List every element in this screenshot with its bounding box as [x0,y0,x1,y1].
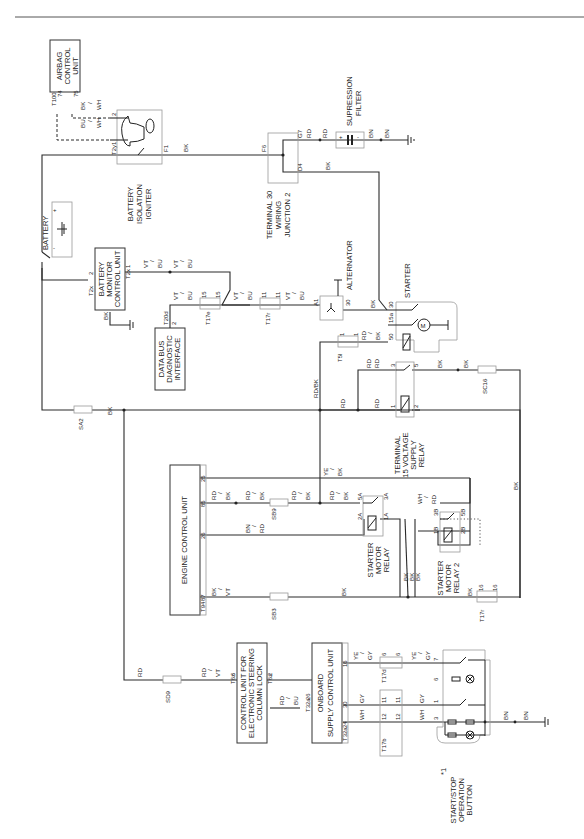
smr-pin-1a: 1A [383,513,389,520]
oscu-pin-16: 16 [342,660,348,667]
alternator-label: ALTERNATOR [345,240,354,290]
alternator-pin-30: 30 [345,299,351,306]
connector-t17b: T17b [381,738,387,752]
svg-text:VT: VT [214,669,221,677]
svg-text:BN: BN [383,129,390,138]
svg-text:RD: RD [244,491,251,500]
wiring-diagram: AIRBAG CONTROL UNIT T100 74 75 1 2 T2y F… [0,0,584,839]
svg-text:BU: BU [79,119,86,128]
svg-text:16: 16 [478,584,484,591]
fuse-sa2: SA2 [77,418,84,430]
svg-text:BU: BU [298,291,305,300]
igniter-label-2: ISOLATION [135,184,144,224]
ssb-pin-1: 1 [433,699,439,703]
terminal-30-wiring-junction-2[interactable]: F6 G7 D4 TERMINAL 30 WIRING JUNCTION 2 [261,129,303,239]
terminal-15-voltage-supply-relay[interactable]: 3 1 5 2 TERMINAL 15 VOLTAGE SUPPLY RELAY [390,362,426,478]
svg-text:BU: BU [292,696,299,705]
alternator[interactable]: ALTERNATOR A1 30 [313,240,354,320]
steering-column-lock-control-unit[interactable]: CONTROL UNIT FOR ELECTRONIC STEERING COL… [230,643,273,743]
dbdi-label-3: INTERFACE [173,338,182,381]
svg-text:WH: WH [358,710,365,720]
start-stop-operation-button[interactable]: 7 6 1 3 *1 START/STOP OPERATION BUTTON [433,650,548,823]
svg-text:6: 6 [395,652,401,656]
fuse-sc16: SC16 [481,378,488,394]
svg-text:WH: WH [95,100,102,110]
onboard-supply-control-unit[interactable]: ONBOARD SUPPLY CONTROL UNIT T32a 26 16 3… [305,643,348,743]
svg-text:RD: RD [278,696,285,705]
battery[interactable]: BATTERY + - [41,202,72,258]
scl-label-3: COLUMN LOCK [255,665,264,721]
svg-text:15: 15 [201,291,207,298]
svg-text:BK: BK [466,587,473,596]
svg-text:BK: BK [369,299,376,308]
svg-text:11: 11 [395,696,401,703]
starter-pin-15a: 15a [388,312,394,323]
airbag-label-3: UNIT [71,57,80,75]
airbag-control-unit[interactable]: AIRBAG CONTROL UNIT T100 74 75 [50,40,80,106]
svg-text:RD: RD [430,495,437,504]
wires [42,140,545,722]
svg-text:BK: BK [512,481,519,490]
junction-label-2: WIRING [274,201,283,229]
svg-text:BK: BK [102,311,109,320]
igniter-connector: T2y [111,145,117,155]
smr-pin-5a: 5A [357,493,363,500]
svg-text:GY: GY [366,651,373,660]
svg-text:/: / [148,260,155,262]
ssb-pin-3: 3 [433,716,439,720]
fuse-sb3: SB3 [270,608,277,620]
starter-label: STARTER [403,263,412,298]
filter-label-2: FILTER [354,90,363,116]
svg-text:/: / [216,492,223,494]
smr-pin-3a: 3A [383,493,389,500]
oscu-connector-right: T32a [342,727,348,741]
svg-text:RD/BK: RD/BK [312,378,319,398]
oscu-label-2: SUPPLY CONTROL UNIT [326,649,335,737]
svg-text:/: / [250,525,257,527]
svg-text:12: 12 [381,713,387,720]
ecu-pin-25: 25 [200,475,206,482]
svg-text:/: / [178,260,185,262]
svg-text:RD: RD [200,668,207,677]
svg-text:BK: BK [224,491,231,500]
svg-text:/: / [284,697,291,699]
scl-pin-2: 2 [267,672,273,676]
battery-minus: - [53,245,55,251]
t15-pin-1: 1 [390,404,396,408]
smr2-pin-3b: 3B [433,509,439,516]
smr2-pin-2b: 2B [460,527,466,534]
smr2-pin-1b: 1B [433,527,439,534]
starter-motor-glyph: M [421,323,426,329]
svg-text:/: / [334,492,341,494]
starter-motor-relay-2[interactable]: 3B 5B 1B 2B STARTER MOTOR RELAY 2 [433,509,466,596]
svg-text:/: / [86,102,93,104]
starter[interactable]: M STARTER 30 15a 50 [387,263,457,352]
svg-text:RD: RD [305,129,312,138]
igniter-label-3: IGNITER [144,188,153,219]
svg-text:1: 1 [339,332,345,336]
filter-label-1: SUPRESSION [345,76,354,126]
svg-text:RD: RD [258,524,265,533]
svg-text:BK: BK [342,491,349,500]
svg-text:BK: BK [462,359,469,368]
svg-text:/: / [250,492,257,494]
svg-text:BK: BK [210,587,217,596]
svg-text:BK: BK [106,406,113,415]
battery-plus: + [53,207,57,213]
engine-control-unit[interactable]: ENGINE CONTROL UNIT T94 25 85 26 87 [170,465,206,615]
svg-text:/: / [366,332,373,334]
svg-text:/: / [206,669,213,671]
igniter-label-1: BATTERY [126,187,135,221]
smr2-label-3: RELAY 2 [452,563,461,594]
t15-label-4: RELAY [417,443,426,467]
ecu-pin-87: 87 [200,594,206,601]
svg-text:/: / [358,652,365,654]
battery-isolation-igniter[interactable]: 1 2 T2y F1 BATTERY ISOLATION IGNITER [110,110,169,224]
svg-text:11: 11 [381,696,387,703]
igniter-pin-2: 2 [111,112,117,116]
t15-pin-3: 3 [390,363,396,367]
svg-text:15: 15 [215,291,221,298]
bmcu-connector-left: T2x [88,286,94,296]
oscu-pin-24: 24 [342,721,348,728]
starter-pin-50: 50 [388,333,394,340]
